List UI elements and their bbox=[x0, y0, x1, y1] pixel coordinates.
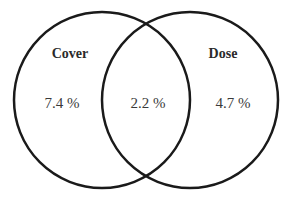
overlap-value: 2.2 % bbox=[131, 95, 166, 112]
dose-label: Dose bbox=[209, 46, 238, 62]
cover-only-value: 7.4 % bbox=[45, 95, 80, 112]
cover-label: Cover bbox=[52, 46, 89, 62]
dose-only-value: 4.7 % bbox=[216, 95, 251, 112]
